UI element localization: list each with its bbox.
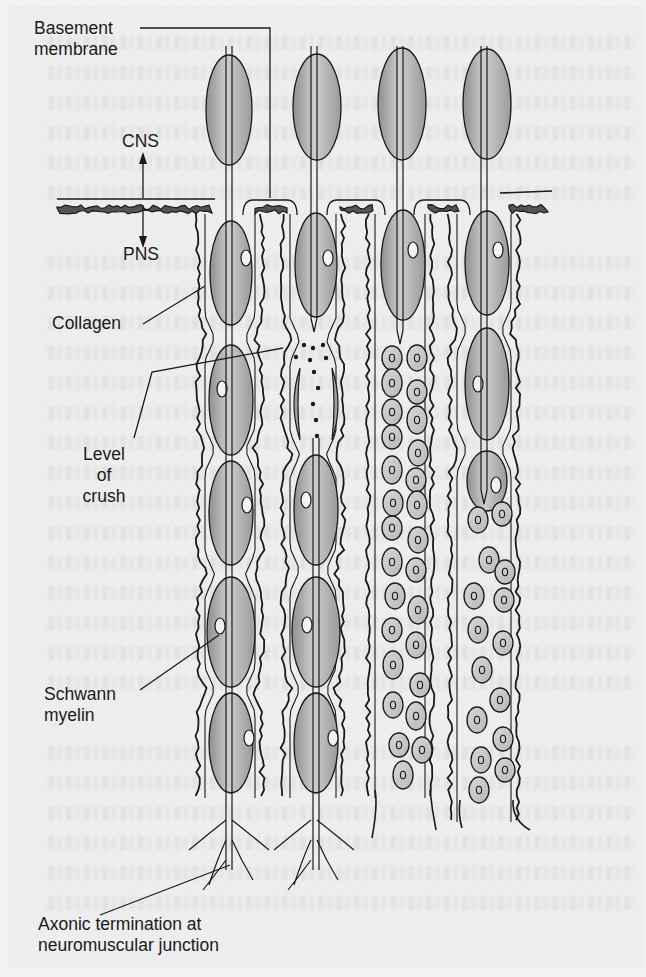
basement-membrane-cap — [414, 200, 470, 215]
collagen-strip — [57, 205, 212, 214]
schwann-cell-nucleus — [323, 250, 333, 266]
cns-pns-boundary-line — [500, 191, 552, 193]
axon-growth-tip — [397, 330, 403, 344]
label-line: membrane — [34, 39, 118, 60]
pns-label: PNS — [123, 244, 159, 265]
debris-dot — [294, 355, 298, 359]
schwann-myelin-leader — [140, 635, 219, 690]
label-line: of — [74, 465, 134, 486]
schwann-cell-nucleus — [241, 250, 251, 266]
schwann-cell-nucleus — [493, 242, 503, 258]
proliferating-schwann-cell — [383, 692, 403, 718]
label-line: Level — [74, 444, 134, 465]
schwann-myelin-segment — [209, 345, 253, 455]
debris-dot — [308, 358, 312, 362]
proliferating-schwann-cell — [408, 440, 428, 466]
proliferating-schwann-cell — [468, 617, 488, 643]
axonic-termination-label: Axonic termination at neuromuscular junc… — [38, 914, 219, 956]
proliferating-schwann-cell — [385, 583, 405, 609]
debris-dot — [321, 343, 325, 347]
proliferating-schwann-cell — [493, 727, 513, 751]
schwann-myelin-segment — [292, 577, 340, 687]
debris-dot — [312, 370, 316, 374]
proliferating-schwann-cell — [406, 558, 426, 582]
scanned-page: Basement membrane CNS PNS Collagen Level… — [0, 0, 646, 977]
cns-oligodendrocyte-myelin — [206, 55, 252, 165]
label-line: Axonic termination at — [38, 914, 219, 935]
proliferating-schwann-cell — [464, 583, 484, 609]
level-of-crush-label: Level of crush — [74, 444, 134, 507]
axonic-termination-leader — [100, 865, 230, 915]
schwann-cell-nucleus — [215, 618, 225, 634]
proliferating-schwann-cell — [495, 758, 515, 782]
cns-oligodendrocyte-myelin — [378, 48, 426, 160]
proliferating-schwann-cell — [493, 631, 513, 655]
debris-dot — [316, 386, 320, 390]
tube-tail — [513, 800, 530, 830]
proliferating-schwann-cell — [410, 673, 430, 697]
proliferating-schwann-cell — [382, 618, 402, 642]
schwann-cell-nucleus — [328, 730, 338, 746]
proliferating-schwann-cell — [406, 702, 426, 730]
axon-terminals — [189, 790, 530, 890]
schwann-myelin-label: Schwann myelin — [44, 684, 116, 726]
schwann-cell-nucleus — [244, 730, 254, 746]
myelin-debris — [332, 368, 338, 440]
proliferating-schwann-cell — [382, 369, 402, 397]
debris-dot — [324, 356, 328, 360]
proliferating-schwann-cell — [382, 548, 402, 576]
proliferating-schwann-cell — [490, 688, 510, 712]
proliferating-schwann-cell — [389, 733, 409, 757]
proliferating-schwann-cell — [382, 399, 402, 425]
debris-dot — [311, 402, 315, 406]
label-line: crush — [74, 486, 134, 507]
proliferating-schwann-cell — [407, 406, 427, 434]
proliferating-schwann-cell — [406, 632, 426, 658]
collagen-strip — [340, 205, 373, 214]
label-line: myelin — [44, 705, 116, 726]
schwann-cell-nucleus — [242, 497, 252, 513]
basement-membrane-label: Basement membrane — [34, 18, 118, 60]
proliferating-schwann-cell — [471, 747, 491, 773]
collagen-strip — [255, 205, 287, 214]
proliferating-schwann-cell — [469, 777, 489, 803]
proliferating-schwann-cell — [382, 456, 402, 484]
proliferating-schwann-cell — [383, 490, 403, 516]
proliferating-schwann-cell — [406, 468, 426, 492]
proliferating-schwann-cell — [407, 380, 427, 404]
proliferating-schwann-cell — [412, 737, 432, 763]
myelin-segments — [206, 48, 511, 793]
cns-label: CNS — [122, 131, 159, 152]
proliferating-schwann-cell — [492, 502, 512, 526]
collagen-label: Collagen — [52, 313, 121, 334]
proliferating-schwann-cell — [393, 761, 413, 789]
proliferating-schwann-cell — [382, 346, 402, 370]
proliferating-schwann-cell — [472, 657, 492, 683]
collagen-leader — [143, 286, 205, 324]
collagen-strip — [428, 205, 459, 214]
axon-growth-tip — [311, 318, 317, 332]
proliferating-schwann-cell — [494, 588, 514, 612]
proliferating-schwann-cell — [467, 707, 487, 733]
proliferating-schwann-cell — [382, 516, 402, 540]
myelin-debris — [294, 368, 300, 440]
debris-dot — [302, 343, 306, 347]
proliferating-schwann-cell — [408, 596, 428, 624]
schwann-cell-nucleus — [301, 492, 311, 508]
debris-dot — [314, 418, 318, 422]
proliferating-schwann-cell — [407, 491, 427, 519]
schwann-cell-nucleus — [302, 617, 312, 633]
proliferating-schwann-cell — [408, 527, 428, 553]
proliferating-schwann-cell — [468, 507, 488, 533]
proliferating-schwann-cell — [383, 651, 403, 679]
tube-tail — [372, 790, 376, 838]
debris-dot — [315, 434, 319, 438]
label-line: neuromuscular junction — [38, 935, 219, 956]
schwann-myelin-segment — [207, 577, 255, 687]
proliferating-schwann-cell — [495, 560, 515, 584]
cns-arrowhead — [139, 152, 147, 164]
proliferating-schwann-cell — [407, 345, 427, 371]
cns-pns-boundary — [57, 191, 552, 215]
label-line: Basement — [34, 18, 118, 39]
label-line: Schwann — [44, 684, 116, 705]
